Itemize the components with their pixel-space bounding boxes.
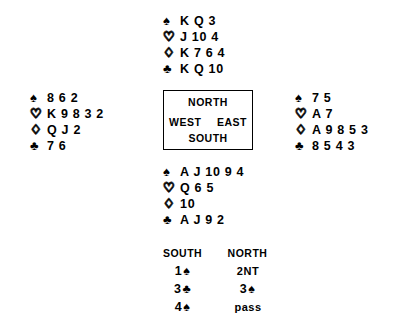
auction-row: 1♠ 2NT — [150, 262, 280, 280]
auction-bid-south-2: 3♣ — [150, 280, 215, 298]
hand-south-hearts: Q 6 5 — [180, 180, 214, 196]
hand-west: ♠ 8 6 2 ♡ K 9 8 3 2 ♢ Q J 2 ♣ 7 6 — [30, 90, 104, 154]
compass-label-north: NORTH — [164, 96, 252, 108]
hand-south-diamonds: 10 — [180, 196, 195, 212]
auction-row: 3♣ 3♠ — [150, 280, 280, 298]
hand-north-clubs: K Q 10 — [180, 61, 224, 77]
auction-header-north: NORTH — [215, 244, 280, 262]
hand-east-hearts-row: ♡ A 7 — [295, 106, 369, 122]
hand-east: ♠ 7 5 ♡ A 7 ♢ A 9 8 5 3 ♣ 8 5 4 3 — [295, 90, 369, 154]
hand-north-clubs-row: ♣ K Q 10 — [163, 61, 225, 77]
spade-icon: ♠ — [163, 13, 180, 29]
club-icon: ♣ — [295, 138, 312, 154]
hand-north-diamonds-row: ♢ K 7 6 4 — [163, 45, 225, 61]
auction-bid-north-1: 2NT — [215, 262, 280, 280]
hand-east-diamonds-row: ♢ A 9 8 5 3 — [295, 122, 369, 138]
spade-icon: ♠ — [163, 164, 180, 180]
hand-south-clubs-row: ♣ A J 9 2 — [163, 212, 244, 228]
auction-bid-south-1: 1♠ — [150, 262, 215, 280]
hand-north-hearts: J 10 4 — [180, 29, 219, 45]
hand-north-spades: K Q 3 — [180, 13, 216, 29]
compass-label-south: SOUTH — [164, 132, 252, 144]
hand-west-diamonds-row: ♢ Q J 2 — [30, 122, 104, 138]
club-icon: ♣ — [163, 61, 180, 77]
hand-east-clubs: 8 5 4 3 — [312, 138, 355, 154]
hand-north-diamonds: K 7 6 4 — [180, 45, 225, 61]
club-icon: ♣ — [181, 282, 191, 296]
hand-west-clubs: 7 6 — [47, 138, 66, 154]
compass-label-west: WEST — [169, 116, 201, 128]
hand-north: ♠ K Q 3 ♡ J 10 4 ♢ K 7 6 4 ♣ K Q 10 — [163, 13, 225, 77]
compass-label-east: EAST — [217, 116, 247, 128]
diamond-icon: ♢ — [163, 45, 180, 61]
heart-icon: ♡ — [30, 106, 47, 122]
auction-bid-south-3: 4♠ — [150, 298, 215, 316]
hand-west-diamonds: Q J 2 — [47, 122, 81, 138]
spade-icon: ♠ — [295, 90, 312, 106]
hand-east-hearts: A 7 — [312, 106, 333, 122]
club-icon: ♣ — [30, 138, 47, 154]
club-icon: ♣ — [163, 212, 180, 228]
auction-row: 4♠ pass — [150, 298, 280, 316]
auction-table: SOUTH NORTH 1♠ 2NT 3♣ 3♠ 4♠ pass — [150, 244, 280, 316]
hand-west-hearts-row: ♡ K 9 8 3 2 — [30, 106, 104, 122]
bid-text: pass — [234, 301, 261, 313]
hand-east-spades-row: ♠ 7 5 — [295, 90, 369, 106]
hand-west-clubs-row: ♣ 7 6 — [30, 138, 104, 154]
hand-west-hearts: K 9 8 3 2 — [47, 106, 104, 122]
hand-south-clubs: A J 9 2 — [180, 212, 225, 228]
hand-west-spades: 8 6 2 — [47, 90, 78, 106]
heart-icon: ♡ — [163, 29, 180, 45]
spade-icon: ♠ — [30, 90, 47, 106]
heart-icon: ♡ — [163, 180, 180, 196]
spade-icon: ♠ — [182, 264, 190, 278]
auction-header-south: SOUTH — [150, 244, 215, 262]
diamond-icon: ♢ — [295, 122, 312, 138]
diamond-icon: ♢ — [30, 122, 47, 138]
auction-bid-north-2: 3♠ — [215, 280, 280, 298]
hand-east-diamonds: A 9 8 5 3 — [312, 122, 369, 138]
bid-text: 2NT — [237, 265, 259, 277]
hand-south-spades: A J 10 9 4 — [180, 164, 244, 180]
heart-icon: ♡ — [295, 106, 312, 122]
hand-south-hearts-row: ♡ Q 6 5 — [163, 180, 244, 196]
hand-south: ♠ A J 10 9 4 ♡ Q 6 5 ♢ 10 ♣ A J 9 2 — [163, 164, 244, 228]
compass-box: NORTH WEST EAST SOUTH — [163, 90, 253, 150]
hand-east-spades: 7 5 — [312, 90, 331, 106]
hand-west-spades-row: ♠ 8 6 2 — [30, 90, 104, 106]
spade-icon: ♠ — [247, 282, 255, 296]
hand-east-clubs-row: ♣ 8 5 4 3 — [295, 138, 369, 154]
spade-icon: ♠ — [182, 300, 190, 314]
hand-north-hearts-row: ♡ J 10 4 — [163, 29, 225, 45]
hand-south-diamonds-row: ♢ 10 — [163, 196, 244, 212]
hand-south-spades-row: ♠ A J 10 9 4 — [163, 164, 244, 180]
diamond-icon: ♢ — [163, 196, 180, 212]
auction-bid-north-3: pass — [215, 298, 280, 316]
hand-north-spades-row: ♠ K Q 3 — [163, 13, 225, 29]
auction-header-row: SOUTH NORTH — [150, 244, 280, 262]
